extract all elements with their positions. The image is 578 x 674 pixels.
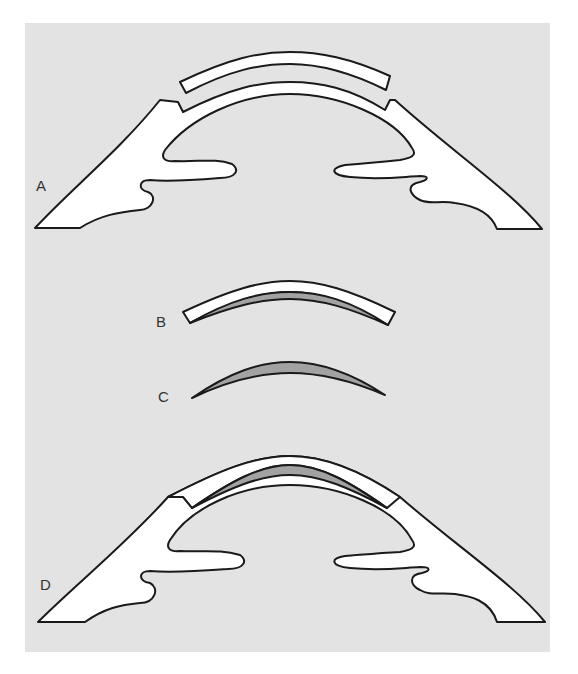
label-a: A — [36, 177, 46, 194]
panel-c: C — [158, 362, 385, 405]
label-d: D — [40, 576, 51, 593]
lenticule-c — [192, 362, 385, 398]
label-b: B — [156, 313, 166, 330]
cornea-d — [38, 456, 545, 622]
label-c: C — [158, 388, 169, 405]
panel-a: A — [35, 52, 542, 229]
keratomileusis-diagram: A B C D — [0, 0, 578, 674]
cornea-a — [35, 82, 542, 229]
panel-d: D — [38, 456, 545, 622]
cap-b — [183, 281, 395, 325]
panel-b: B — [156, 281, 395, 330]
